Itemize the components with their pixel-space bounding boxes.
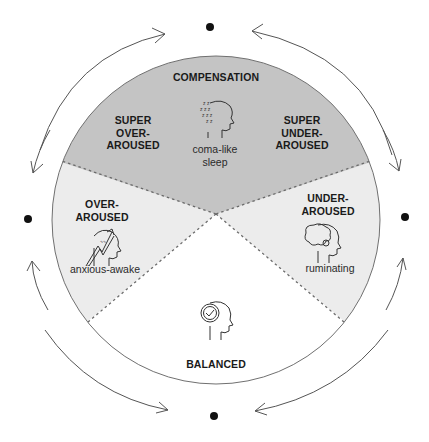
cycle-point-bottom [210,412,218,420]
over-aroused-label: OVER- AROUSED [67,198,137,223]
under-aroused-line2: AROUSED [288,205,368,218]
compensation-title: COMPENSATION [156,71,276,84]
super-under-aroused-label: SUPER UNDER- AROUSED [262,114,342,152]
super-under-aroused-line1: SUPER [262,114,342,127]
svg-text:∿∿: ∿∿ [100,239,106,244]
super-under-aroused-line2: UNDER- [262,127,342,140]
super-over-aroused-line2: OVER- [98,127,168,140]
svg-text:z z: z z [206,118,213,124]
cycle-point-right [401,213,409,221]
coma-like-sleep-label: coma-like sleep [180,143,250,169]
cycle-point-left [24,215,32,223]
over-aroused-line1: OVER- [67,198,137,211]
over-aroused-line2: AROUSED [67,211,137,224]
under-aroused-label: UNDER- AROUSED [288,192,368,217]
arrow-left-lower [32,261,48,310]
arrow-right-lower [386,258,403,310]
arousal-cycle-diagram: z z z z z z z z z z ∿∿ [0,0,429,442]
cycle-point-top [206,23,214,31]
ruminating-label: ruminating [290,262,370,275]
super-over-aroused-line1: SUPER [98,114,168,127]
under-aroused-line1: UNDER- [288,192,368,205]
arrow-left-upper [33,130,50,173]
coma-like-line2: sleep [180,156,250,169]
anxious-awake-label: anxious-awake [60,263,150,276]
super-under-aroused-line3: AROUSED [262,139,342,152]
super-over-aroused-line3: AROUSED [98,139,168,152]
balanced-title: BALANCED [166,358,266,371]
coma-like-line1: coma-like [180,143,250,156]
super-over-aroused-label: SUPER OVER- AROUSED [98,114,168,152]
